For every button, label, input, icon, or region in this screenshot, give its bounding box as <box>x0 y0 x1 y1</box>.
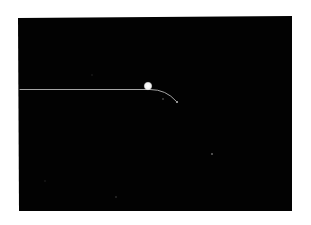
speck <box>91 74 92 75</box>
speck <box>115 196 117 198</box>
particle-track <box>20 90 176 102</box>
speck <box>176 101 178 103</box>
small-marks <box>44 74 213 198</box>
bright-spot <box>143 81 152 90</box>
speck <box>44 180 45 181</box>
particle-track-scene <box>0 0 311 225</box>
speck <box>211 153 213 155</box>
speck <box>162 98 163 99</box>
